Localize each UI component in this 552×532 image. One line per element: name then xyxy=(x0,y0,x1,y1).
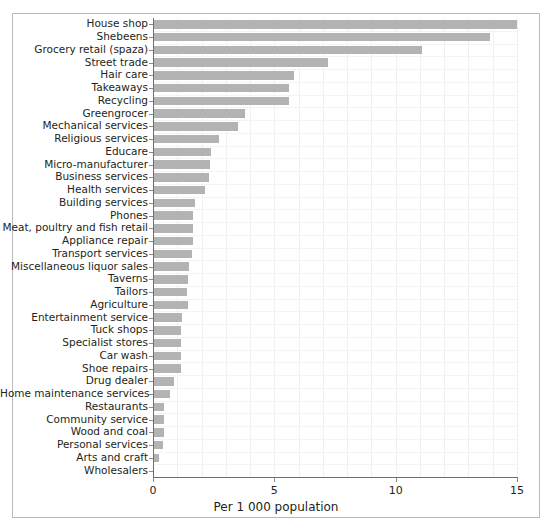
category-label: Wholesalers xyxy=(0,465,148,476)
bar xyxy=(153,275,188,284)
bar xyxy=(153,250,192,259)
bar xyxy=(153,71,294,80)
y-tick xyxy=(149,241,153,242)
bar-row xyxy=(153,173,517,182)
bar-row xyxy=(153,352,517,361)
y-tick xyxy=(149,152,153,153)
bar-row xyxy=(153,84,517,93)
y-tick xyxy=(149,305,153,306)
category-label: Taverns xyxy=(0,273,148,284)
category-label: Tuck shops xyxy=(0,324,148,335)
category-label: Religious services xyxy=(0,133,148,144)
y-tick xyxy=(149,126,153,127)
y-tick xyxy=(149,369,153,370)
bar-row xyxy=(153,377,517,386)
bar xyxy=(153,301,188,310)
category-label: Greengrocer xyxy=(0,108,148,119)
y-tick xyxy=(149,471,153,472)
y-tick xyxy=(149,330,153,331)
bar xyxy=(153,148,211,157)
gridline-horizontal xyxy=(153,337,517,338)
bar xyxy=(153,58,328,67)
bar-row xyxy=(153,122,517,131)
category-label: Phones xyxy=(0,210,148,221)
y-tick xyxy=(149,318,153,319)
gridline-horizontal xyxy=(153,248,517,249)
category-label: Arts and craft xyxy=(0,452,148,463)
y-tick xyxy=(149,203,153,204)
gridline-horizontal xyxy=(153,95,517,96)
gridline-horizontal xyxy=(153,439,517,440)
bar-row xyxy=(153,454,517,463)
category-label: Mechanical services xyxy=(0,120,148,131)
gridline-horizontal xyxy=(153,464,517,465)
x-tick xyxy=(274,478,275,482)
bar xyxy=(153,390,170,399)
bar xyxy=(153,33,490,42)
bar-row xyxy=(153,199,517,208)
bar-row xyxy=(153,160,517,169)
bar-row xyxy=(153,33,517,42)
bar xyxy=(153,109,245,118)
category-label: Health services xyxy=(0,184,148,195)
bar xyxy=(153,224,193,233)
bar xyxy=(153,364,181,373)
bar-row xyxy=(153,109,517,118)
bar xyxy=(153,122,238,131)
y-tick xyxy=(149,394,153,395)
bar-row xyxy=(153,288,517,297)
gridline-horizontal xyxy=(153,69,517,70)
y-tick xyxy=(149,381,153,382)
bar xyxy=(153,46,422,55)
gridline-horizontal xyxy=(153,82,517,83)
bar-row xyxy=(153,186,517,195)
x-axis-label: Per 1 000 population xyxy=(0,500,552,514)
category-label: Agriculture xyxy=(0,299,148,310)
y-tick xyxy=(149,216,153,217)
y-tick xyxy=(149,458,153,459)
bar xyxy=(153,403,164,412)
x-tick xyxy=(153,478,154,482)
bar-row xyxy=(153,415,517,424)
bar-row xyxy=(153,313,517,322)
gridline-horizontal xyxy=(153,235,517,236)
y-tick xyxy=(149,228,153,229)
bar-row xyxy=(153,71,517,80)
bar xyxy=(153,173,209,182)
gridline-horizontal xyxy=(153,273,517,274)
y-tick xyxy=(149,407,153,408)
gridline-horizontal xyxy=(153,44,517,45)
bar-row xyxy=(153,428,517,437)
y-tick xyxy=(149,279,153,280)
bar-row xyxy=(153,301,517,310)
gridline-horizontal xyxy=(153,286,517,287)
gridline-horizontal xyxy=(153,158,517,159)
y-axis-spine xyxy=(153,18,154,477)
y-tick xyxy=(149,254,153,255)
x-tick-label: 15 xyxy=(497,484,537,497)
category-label: Entertainment service xyxy=(0,312,148,323)
bar-row xyxy=(153,390,517,399)
gridline-horizontal xyxy=(153,56,517,57)
bar xyxy=(153,415,164,424)
bar-row xyxy=(153,224,517,233)
category-label: Grocery retail (spaza) xyxy=(0,44,148,55)
gridline-horizontal xyxy=(153,413,517,414)
bar-row xyxy=(153,339,517,348)
bar xyxy=(153,288,187,297)
gridline-horizontal xyxy=(153,401,517,402)
category-label: Street trade xyxy=(0,57,148,68)
bar xyxy=(153,199,195,208)
y-tick xyxy=(149,63,153,64)
bar-row xyxy=(153,441,517,450)
chart-figure: House shopShebeensGrocery retail (spaza)… xyxy=(0,0,552,532)
bar xyxy=(153,441,163,450)
category-label: Shebeens xyxy=(0,31,148,42)
y-tick xyxy=(149,139,153,140)
category-label: Hair care xyxy=(0,69,148,80)
category-label: Appliance repair xyxy=(0,235,148,246)
bar xyxy=(153,428,164,437)
category-label: Recycling xyxy=(0,95,148,106)
category-label: Home maintenance services xyxy=(0,388,148,399)
y-tick xyxy=(149,420,153,421)
